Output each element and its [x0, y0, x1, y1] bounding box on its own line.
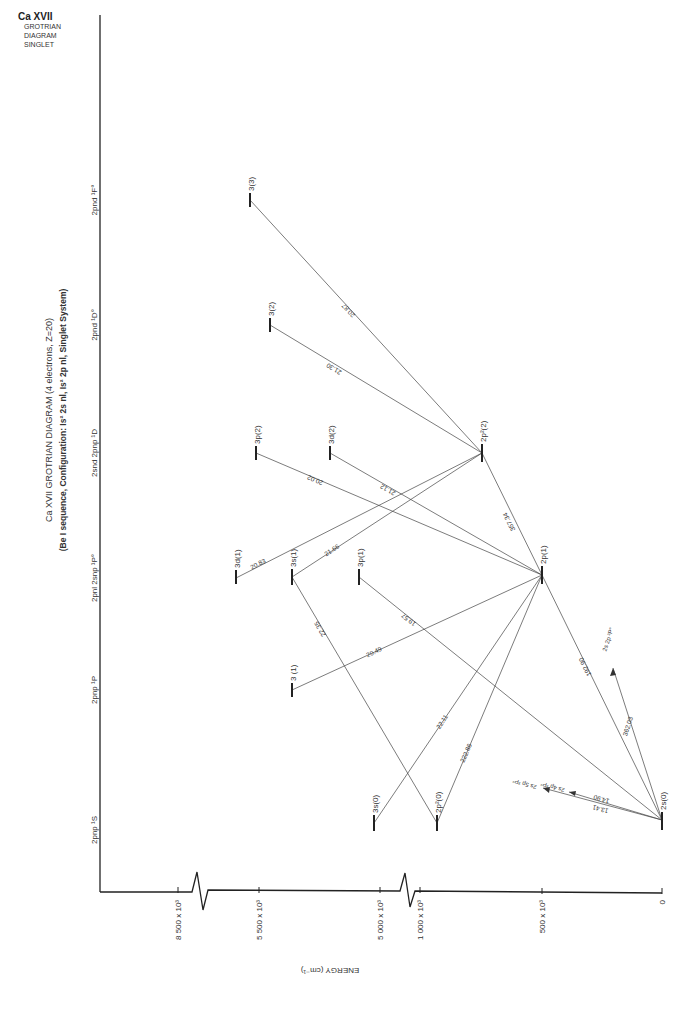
wavelength-label: 14.90	[592, 794, 610, 805]
tick-label: 1 000 x 10³	[416, 900, 425, 940]
wavelength-label: 20.49	[365, 645, 383, 658]
column-label-1Po: 2pnl 2snp ¹P°	[90, 554, 99, 602]
title-line-1: Ca XVII GROTRIAN DIAGRAM (4 electrons, Z…	[44, 318, 54, 522]
tick-label: 0	[658, 899, 667, 904]
column-label-1S: 2pnp ¹S	[90, 816, 99, 844]
tick-label: 500 x 10³	[538, 900, 547, 934]
energy-levels	[236, 193, 662, 831]
level-label: 3(2)	[267, 301, 276, 316]
wavelength-labels: 20.87 21.30 20.02 21.12 20.83 21.66 22.3…	[249, 302, 634, 815]
column-label-1Fo: 2pnd ¹F°	[90, 185, 99, 216]
wavelength-label: 362.03	[621, 715, 634, 736]
wavelength-label: 21.30	[325, 362, 343, 377]
level-label: 3s(1)	[289, 548, 298, 567]
tick-label: 5 000 x 10³	[376, 900, 385, 940]
arrow-target-labels: 2s 2p ³P° 2s 4p ³P° 2s 5p ³P°	[511, 626, 615, 793]
arrow-target-label: 2s 2p ³P°	[601, 626, 615, 652]
wavelength-label: 20.83	[249, 557, 267, 571]
tick-label: 8 500 x 10³	[174, 900, 183, 940]
wavelength-label: 222.86	[458, 742, 473, 763]
level-label: 3p(2)	[253, 425, 262, 444]
level-label: 3d(2)	[327, 425, 336, 444]
grotrian-diagram: Ca XVII GROTRIAN DIAGRAM (4 electrons, Z…	[0, 0, 682, 1011]
arrow-target-label: 2s 5p ³P°	[511, 777, 537, 790]
tick-label: 5 500 x 10³	[255, 900, 264, 940]
level-label: 3d(1)	[233, 549, 242, 568]
level-label: 2p(1)	[539, 545, 548, 564]
level-labels: 2s(0) 2p(1) 2p²(2) 3s(0) 2p²(0) 3 (1) 3d…	[233, 176, 668, 813]
title-line-2: (Be I sequence, Configuration: Is² 2s nl…	[58, 289, 68, 552]
column-label-1P: 2pnp ¹P	[90, 676, 99, 704]
wavelength-label: 22.35	[313, 620, 327, 638]
wavelength-label: 19.57	[400, 612, 417, 628]
level-label: 3(3)	[247, 176, 256, 191]
level-label: 2p²(2)	[479, 420, 488, 442]
level-label: 2p²(0)	[434, 791, 443, 813]
level-label: 3p(1)	[356, 548, 365, 567]
axis-title: ENERGY (cm⁻¹)	[300, 966, 359, 975]
wavelength-label: 20.87	[340, 302, 356, 319]
transition-lines	[236, 200, 662, 823]
wavelength-label: 357.34	[501, 511, 516, 532]
wavelength-label: 21.12	[379, 483, 397, 497]
arrow-target-label: 2s 4p ³P°	[539, 780, 565, 793]
arrowheads	[543, 668, 616, 796]
column-label-1D: 2snd 2pnp ¹D	[90, 429, 99, 477]
wavelength-label: 21.66	[323, 542, 341, 557]
column-label-1Do: 2pnd ¹D°	[90, 309, 99, 341]
level-label: 3s(0)	[371, 794, 380, 813]
wavelength-label: 192.90	[577, 656, 592, 677]
column-labels: 2pnp ¹S 2pnp ¹P 2pnl 2snp ¹P° 2snd 2pnp …	[90, 185, 99, 844]
axis-tick-labels: 0 500 x 10³ 1 000 x 10³ 5 000 x 10³ 5 50…	[174, 899, 667, 940]
wavelength-label: 20.02	[306, 474, 324, 487]
level-label: 3 (1)	[289, 664, 298, 681]
diagram-title: Ca XVII GROTRIAN DIAGRAM (4 electrons, Z…	[44, 289, 68, 552]
level-label: 2s(0)	[659, 791, 668, 810]
